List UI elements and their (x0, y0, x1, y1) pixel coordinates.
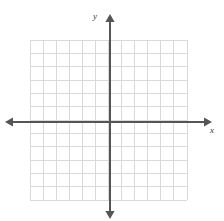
coordinate-plane-svg (0, 0, 224, 221)
grid-lines (30, 40, 187, 200)
y-axis-down-arrowhead (105, 211, 114, 219)
x-axis-left-arrowhead (5, 117, 13, 126)
x-axis-label: x (210, 126, 214, 135)
coordinate-plane-figure: y x (0, 0, 224, 221)
y-axis-label: y (93, 12, 97, 21)
y-axis-up-arrowhead (105, 14, 114, 22)
